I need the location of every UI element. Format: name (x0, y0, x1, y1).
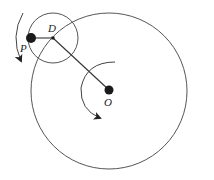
diagram-canvas: P D O (0, 0, 214, 180)
label-O: O (104, 96, 112, 108)
label-P: P (19, 42, 27, 54)
label-D: D (47, 22, 56, 34)
point-D (52, 37, 55, 40)
point-P (26, 33, 36, 43)
point-O (105, 86, 114, 95)
